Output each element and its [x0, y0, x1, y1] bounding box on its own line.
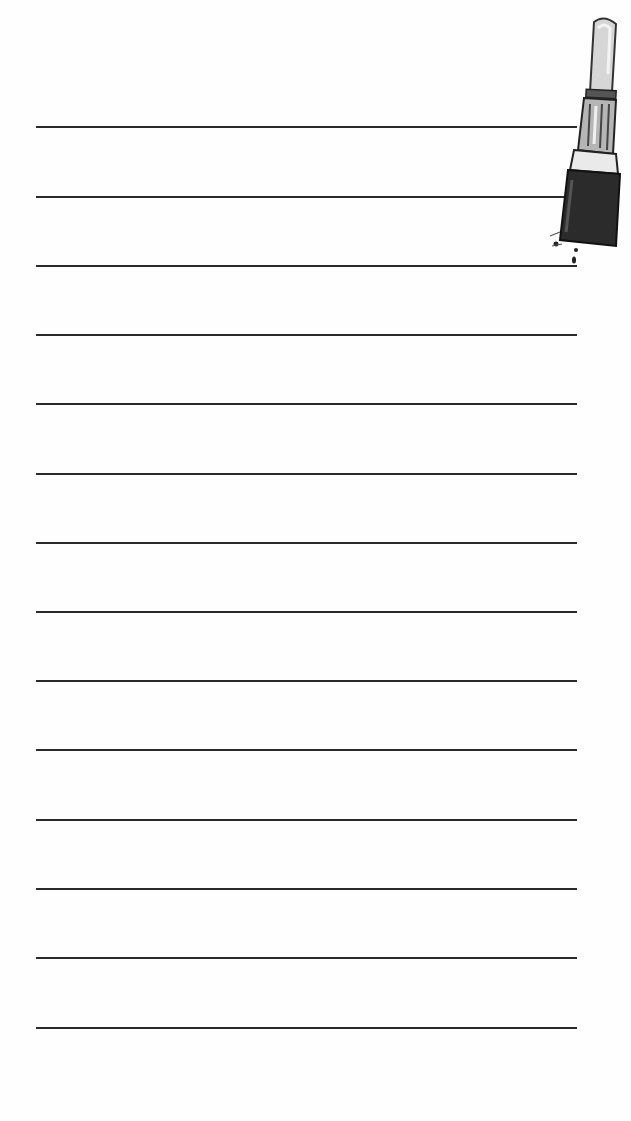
ruled-line	[36, 126, 577, 128]
ruled-line	[36, 196, 577, 198]
ruled-line	[36, 1027, 577, 1029]
lipstick-icon	[546, 14, 626, 264]
notepad-page	[0, 0, 631, 1121]
ruled-line	[36, 403, 577, 405]
ruled-line	[36, 749, 577, 751]
ruled-line	[36, 542, 577, 544]
ruled-line	[36, 265, 577, 267]
ruled-line	[36, 473, 577, 475]
ruled-line	[36, 888, 577, 890]
ruled-line	[36, 611, 577, 613]
ruled-line	[36, 334, 577, 336]
ruled-line	[36, 680, 577, 682]
ruled-line	[36, 957, 577, 959]
ruled-line	[36, 819, 577, 821]
